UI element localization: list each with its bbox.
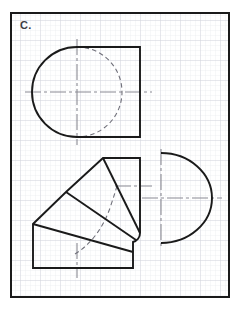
problem-label: C. (20, 20, 31, 31)
worksheet-canvas: C. (0, 0, 241, 312)
graph-grid (12, 14, 228, 296)
technical-drawing (0, 0, 241, 312)
